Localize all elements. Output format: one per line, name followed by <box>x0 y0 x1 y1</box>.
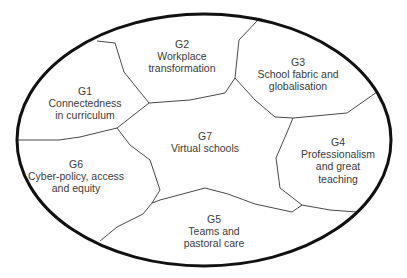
boundary-g4-g7 <box>276 118 302 205</box>
region-title-line: Professionalism <box>301 148 375 160</box>
region-code: G2 <box>148 38 215 50</box>
region-title-line: Virtual schools <box>171 142 239 154</box>
region-title-line: globalisation <box>257 80 338 92</box>
region-title-line: School fabric and <box>257 68 338 80</box>
region-g7-label: G7 Virtual schools <box>171 130 239 154</box>
region-title-line: and great <box>301 160 375 172</box>
region-g6-label: G6 Cyber-policy, access and equity <box>28 158 124 195</box>
region-g4-label: G4 Professionalism and great teaching <box>301 136 375 185</box>
boundary-g2-g7 <box>149 78 235 103</box>
region-title-line: Connectedness <box>49 97 122 109</box>
boundary-g4-g5 <box>302 205 357 212</box>
boundary-g5-g6 <box>100 203 152 241</box>
region-code: G4 <box>301 136 375 148</box>
boundary-g3-g4 <box>293 92 377 118</box>
region-g1-label: G1 Connectedness in curriculum <box>49 85 122 122</box>
region-g3-label: G3 School fabric and globalisation <box>257 56 338 93</box>
region-g2-label: G2 Workplace transformation <box>148 38 215 75</box>
region-title-line: Teams and <box>184 225 245 237</box>
region-title-line: pastoral care <box>184 237 245 249</box>
region-title-line: Workplace <box>148 50 215 62</box>
region-title-line: transformation <box>148 62 215 74</box>
region-code: G6 <box>28 158 124 170</box>
region-code: G1 <box>49 85 122 97</box>
region-code: G3 <box>257 56 338 68</box>
boundary-g1-g6 <box>17 128 117 140</box>
boundary-g2-g3 <box>235 20 258 78</box>
boundary-g1-g7 <box>117 103 149 128</box>
region-title-line: Cyber-policy, access <box>28 170 124 182</box>
region-code: G5 <box>184 213 245 225</box>
region-title-line: teaching <box>301 173 375 185</box>
region-title-line: in curriculum <box>49 109 122 121</box>
region-code: G7 <box>171 130 239 142</box>
region-title-line: and equity <box>28 182 124 194</box>
region-g5-label: G5 Teams and pastoral care <box>184 213 245 250</box>
boundary-g5-g7 <box>152 188 302 212</box>
